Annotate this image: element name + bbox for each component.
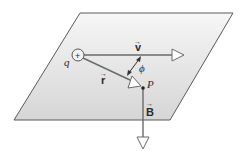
charge: +	[72, 49, 84, 61]
field-point-label: P	[146, 78, 154, 90]
plane	[14, 13, 233, 120]
moving-charge-field-diagram: v → r → ϕ + q B → P	[0, 0, 245, 151]
field-point	[141, 86, 145, 90]
velocity-arrow-mark: →	[134, 38, 141, 45]
charge-label: q	[64, 56, 70, 68]
position-arrow-mark: →	[100, 70, 107, 77]
magnetic-field-arrow-mark: →	[146, 100, 153, 107]
magnetic-field-arrowhead-icon	[137, 137, 149, 149]
angle-label: ϕ	[139, 62, 145, 74]
magnetic-field-label: B	[146, 106, 154, 118]
charge-sign: +	[75, 51, 80, 61]
